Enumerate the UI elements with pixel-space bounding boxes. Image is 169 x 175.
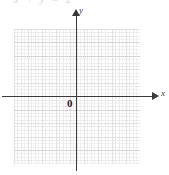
x-axis-label: x [161, 89, 165, 98]
y-axis-label: y [79, 6, 83, 15]
origin-label: 0 [67, 97, 73, 109]
x-axis-line [2, 96, 154, 97]
coordinate-grid-figure: x + y = 2 x y 0 [0, 0, 169, 175]
y-axis-line [76, 16, 77, 171]
x-axis-arrow-icon [152, 92, 159, 100]
equation-caption: x + y = 2 [14, 0, 134, 5]
